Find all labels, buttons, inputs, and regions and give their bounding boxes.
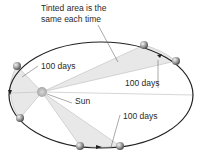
planet-icon — [76, 142, 84, 150]
caption-line2: same each time — [41, 14, 101, 24]
ray-right — [42, 92, 193, 95]
planet-icon — [140, 41, 148, 49]
leader-bottom — [111, 115, 120, 147]
label-100-days-bottom: 100 days — [123, 111, 158, 121]
caption-line1: Tinted area is the — [41, 3, 107, 13]
caption-leader — [98, 25, 118, 62]
kepler-diagram: Tinted area is the same each time 100 da… — [0, 0, 199, 151]
planet-icon — [13, 62, 21, 70]
label-sun: Sun — [75, 96, 90, 106]
label-100-days-right: 100 days — [125, 78, 160, 88]
leader-top-left — [22, 66, 38, 77]
planet-icon — [172, 57, 180, 65]
label-100-days-left: 100 days — [41, 61, 76, 71]
planet-icon — [16, 114, 24, 122]
sun-icon — [37, 87, 47, 97]
planet-icon — [116, 142, 124, 150]
